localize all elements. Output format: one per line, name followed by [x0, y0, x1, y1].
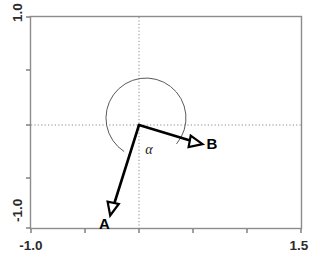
y-axis-max-label: 1.0	[10, 3, 25, 22]
x-axis-min-label: -1.0	[19, 238, 42, 253]
x-axis-max-label: 1.5	[290, 238, 309, 253]
angle-alpha-label: α	[145, 142, 153, 157]
plot-canvas: 1.0 -1.0 -1.0 1.5 A B α	[0, 0, 314, 265]
vector-a-label: A	[99, 215, 110, 232]
vector-b-label: B	[207, 135, 218, 152]
vector-diagram-figure: 1.0 -1.0 -1.0 1.5 A B α	[0, 0, 314, 265]
y-axis-min-label: -1.0	[10, 199, 25, 222]
figure-background	[0, 0, 314, 265]
